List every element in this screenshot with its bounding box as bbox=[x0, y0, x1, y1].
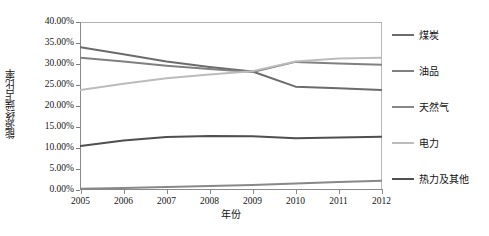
x-tick-mark bbox=[253, 190, 254, 194]
y-tick-label: 25.00% bbox=[22, 80, 74, 90]
y-tick-label: 5.00% bbox=[22, 164, 74, 174]
legend-label: 天然气 bbox=[419, 102, 449, 113]
x-tick-mark bbox=[124, 190, 125, 194]
y-tick-mark bbox=[76, 43, 80, 44]
x-tick-label: 2011 bbox=[319, 196, 359, 206]
y-tick-mark bbox=[76, 190, 80, 191]
y-axis-title: 能源终端占比率 bbox=[2, 42, 20, 166]
y-tick-label: 15.00% bbox=[22, 122, 74, 132]
legend-line-swatch-icon bbox=[392, 106, 414, 108]
y-tick-label: 10.00% bbox=[22, 143, 74, 153]
x-tick-label: 2012 bbox=[362, 196, 402, 206]
legend-label: 油品 bbox=[419, 66, 439, 77]
legend-label: 电力 bbox=[419, 138, 439, 149]
y-tick-mark bbox=[76, 169, 80, 170]
x-tick-mark bbox=[339, 190, 340, 194]
y-tick-label: 40.00% bbox=[22, 17, 74, 27]
x-tick-mark bbox=[296, 190, 297, 194]
series-line-天然气 bbox=[81, 181, 382, 189]
legend-line-swatch-icon bbox=[392, 34, 414, 36]
x-tick-label: 2007 bbox=[147, 196, 187, 206]
legend-label: 热力及其他 bbox=[419, 174, 469, 185]
x-tick-mark bbox=[167, 190, 168, 194]
x-axis-title: 年份 bbox=[80, 209, 382, 220]
y-tick-label: 0.00% bbox=[22, 185, 74, 195]
legend-item-油品[interactable]: 油品 bbox=[392, 64, 439, 78]
legend-item-煤炭[interactable]: 煤炭 bbox=[392, 28, 439, 42]
x-tick-label: 2009 bbox=[233, 196, 273, 206]
y-tick-mark bbox=[76, 85, 80, 86]
x-tick-label: 2006 bbox=[104, 196, 144, 206]
y-tick-mark bbox=[76, 127, 80, 128]
series-line-油品 bbox=[81, 58, 382, 72]
legend-item-热力及其他[interactable]: 热力及其他 bbox=[392, 172, 469, 186]
chart-legend: 煤炭油品天然气电力热力及其他 bbox=[392, 24, 488, 190]
legend-line-swatch-icon bbox=[392, 142, 414, 144]
y-tick-mark bbox=[76, 106, 80, 107]
y-tick-mark bbox=[76, 64, 80, 65]
y-tick-label: 35.00% bbox=[22, 38, 74, 48]
series-lines bbox=[80, 22, 382, 190]
y-tick-mark bbox=[76, 22, 80, 23]
chart-container: 能源终端占比率 0.00%5.00%10.00%15.00%20.00%25.0… bbox=[0, 0, 489, 236]
y-tick-mark bbox=[76, 148, 80, 149]
legend-line-swatch-icon bbox=[392, 70, 414, 72]
x-tick-mark bbox=[382, 190, 383, 194]
series-line-热力及其他 bbox=[81, 136, 382, 146]
legend-item-天然气[interactable]: 天然气 bbox=[392, 100, 449, 114]
x-tick-label: 2010 bbox=[276, 196, 316, 206]
x-tick-label: 2005 bbox=[61, 196, 101, 206]
legend-label: 煤炭 bbox=[419, 30, 439, 41]
x-tick-mark bbox=[210, 190, 211, 194]
legend-line-swatch-icon bbox=[392, 178, 414, 180]
legend-item-电力[interactable]: 电力 bbox=[392, 136, 439, 150]
x-tick-label: 2008 bbox=[190, 196, 230, 206]
y-tick-label: 20.00% bbox=[22, 101, 74, 111]
y-tick-label: 30.00% bbox=[22, 59, 74, 69]
x-tick-mark bbox=[81, 190, 82, 194]
